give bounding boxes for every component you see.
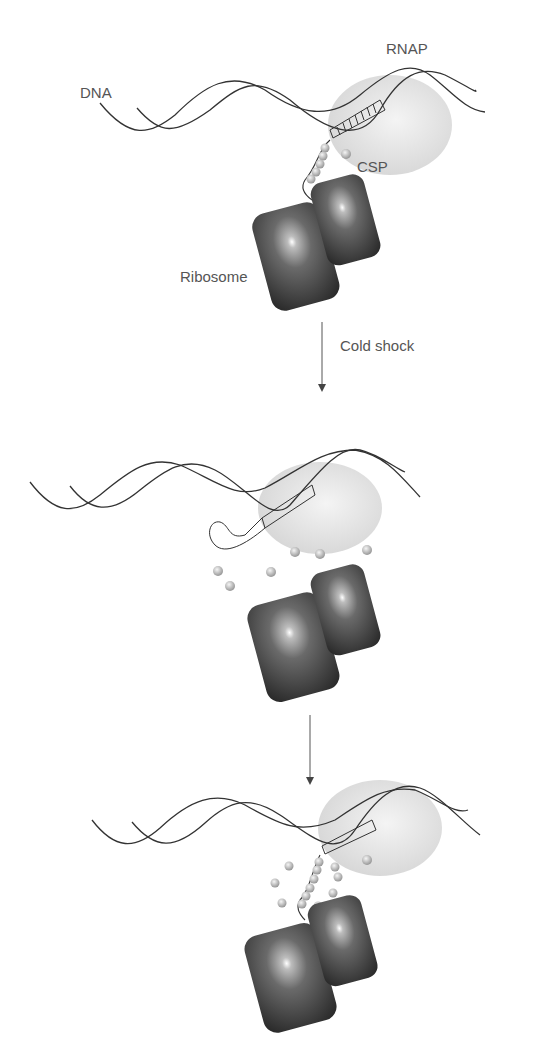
arrow-recovery [306, 715, 314, 785]
arrow-cold-shock [318, 322, 326, 392]
ribosome [237, 892, 388, 1035]
diagram-canvas [0, 0, 540, 1052]
rnap [328, 75, 452, 175]
label-csp: CSP [357, 158, 388, 175]
panel-normal [100, 68, 485, 314]
label-cold-shock: Cold shock [340, 337, 414, 354]
label-rnap: RNAP [386, 40, 428, 57]
label-ribosome: Ribosome [180, 268, 248, 285]
ribosome [245, 172, 391, 314]
ribosome [240, 562, 391, 705]
label-dna: DNA [80, 84, 112, 101]
panel-recovery [92, 780, 480, 1036]
panel-after-cold-shock [30, 449, 420, 705]
